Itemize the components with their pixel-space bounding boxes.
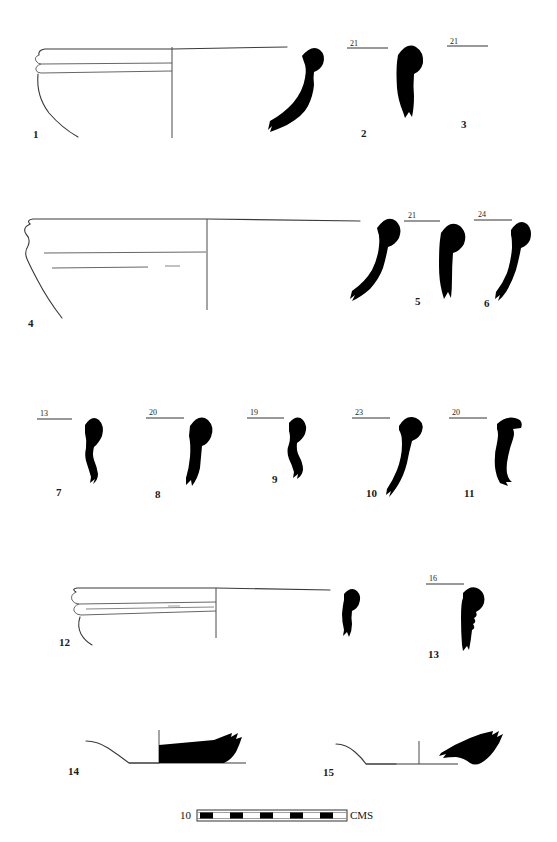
scale-bar-graphic (197, 810, 347, 821)
figure-4-sherd-silhouette (350, 219, 400, 301)
figure-14-drawing (86, 730, 246, 763)
figure-number-9: 9 (272, 474, 278, 485)
figure-number-13: 13 (428, 649, 439, 660)
scale-bar-right-label: CMS (350, 810, 373, 821)
figure-12-sherd-silhouette (342, 589, 360, 637)
figure-6-drawing (474, 220, 531, 301)
figure-number-14: 14 (68, 766, 79, 777)
figure-number-7: 7 (56, 487, 62, 498)
dimension-label-7: 13 (40, 410, 48, 418)
figure-number-15: 15 (323, 767, 334, 778)
dimension-label-2: 21 (350, 40, 358, 48)
figure-5-drawing (404, 221, 465, 299)
pottery-plate: 1 2 3 4 5 6 7 8 9 10 11 12 13 14 15 21 2… (0, 0, 557, 842)
dimension-label-3: 21 (450, 38, 458, 46)
figure-number-12: 12 (59, 637, 70, 648)
dimension-label-8: 20 (149, 409, 157, 417)
dimension-label-6: 24 (478, 211, 486, 219)
dimension-label-13: 16 (429, 575, 437, 583)
pottery-drawing-canvas (0, 0, 557, 842)
scale-bar-left-label: 10 (180, 810, 191, 821)
figure-number-6: 6 (484, 298, 490, 309)
figure-1-drawing (35, 47, 287, 138)
figure-15-drawing (336, 731, 503, 765)
dimension-label-5: 21 (408, 212, 416, 220)
figure-8-drawing (146, 418, 212, 486)
figure-number-4: 4 (28, 318, 34, 329)
figure-4-drawing (25, 219, 360, 318)
figure-3-drawing (397, 46, 489, 118)
dimension-label-10: 23 (355, 409, 363, 417)
figure-number-11: 11 (464, 488, 474, 499)
figure-2-drawing (268, 48, 388, 132)
figure-number-8: 8 (155, 489, 161, 500)
figure-7-drawing (37, 418, 103, 484)
dimension-label-9: 19 (250, 409, 258, 417)
figure-10-drawing (352, 417, 423, 497)
figure-9-drawing (247, 418, 306, 479)
figure-number-1: 1 (33, 129, 39, 140)
figure-number-5: 5 (415, 296, 421, 307)
figure-13-drawing (426, 584, 484, 651)
dimension-label-11: 20 (452, 409, 460, 417)
figure-number-2: 2 (361, 128, 367, 139)
figure-12-drawing (72, 588, 331, 645)
figure-number-10: 10 (366, 488, 377, 499)
figure-number-3: 3 (461, 119, 467, 130)
figure-11-drawing (449, 418, 522, 486)
